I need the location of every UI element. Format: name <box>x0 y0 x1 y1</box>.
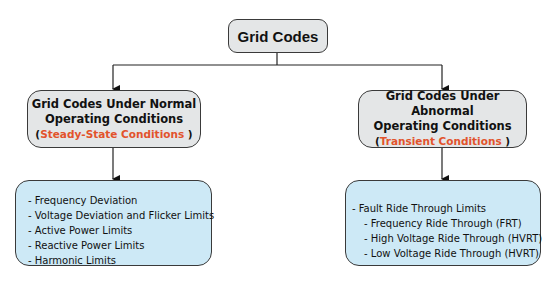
list-item-frt: - Frequency Ride Through (FRT) <box>352 216 540 231</box>
node-subtitle: (Steady-State Conditions ) <box>35 127 192 142</box>
list-item-voltage-deviation-flicker: - Voltage Deviation and Flicker Limits <box>28 208 211 223</box>
list-item-lvrt: - Low Voltage Ride Through (HVRT) <box>352 246 540 261</box>
list-item-harmonic-limits: - Harmonic Limits <box>28 253 211 268</box>
node-title-line1: Grid Codes Under Normal <box>32 97 197 112</box>
node-title-line2: Operating Conditions <box>45 112 183 127</box>
node-subtitle: (Transient Conditions ) <box>375 134 510 149</box>
node-title-line2: Operating Conditions <box>373 119 511 134</box>
list-item-hvrt: - High Voltage Ride Through (HVRT) <box>352 231 540 246</box>
root-node-grid-codes: Grid Codes <box>228 19 328 53</box>
list-item-frequency-deviation: - Frequency Deviation <box>28 193 211 208</box>
list-normal-conditions: - Frequency Deviation - Voltage Deviatio… <box>15 180 212 266</box>
node-abnormal-conditions: Grid Codes Under Abnormal Operating Cond… <box>358 90 527 148</box>
paren-close: ) <box>184 128 192 140</box>
root-node-label: Grid Codes <box>238 28 319 45</box>
paren-close: ) <box>502 135 510 147</box>
list-abnormal-conditions: - Fault Ride Through Limits - Frequency … <box>345 180 541 266</box>
subtitle-transient: Transient Conditions <box>380 135 502 147</box>
node-normal-conditions: Grid Codes Under Normal Operating Condit… <box>27 90 201 148</box>
node-title-line1: Grid Codes Under Abnormal <box>359 89 526 119</box>
list-item-fault-ride-through: - Fault Ride Through Limits <box>352 201 540 216</box>
list-item-reactive-power-limits: - Reactive Power Limits <box>28 238 211 253</box>
list-item-active-power-limits: - Active Power Limits <box>28 223 211 238</box>
subtitle-steady-state: Steady-State Conditions <box>40 128 184 140</box>
